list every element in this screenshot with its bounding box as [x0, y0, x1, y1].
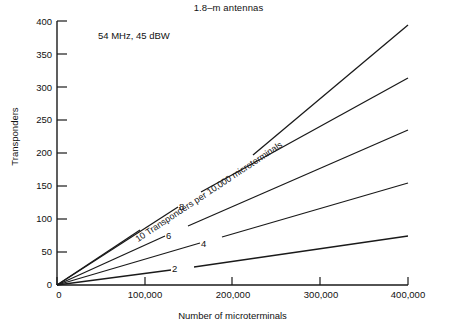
y-axis-ticks [57, 21, 67, 252]
series-label-8: 8 [179, 201, 184, 212]
series-line-10 [57, 25, 408, 285]
series-label-4: 4 [201, 238, 206, 249]
series-label-6: 6 [166, 230, 171, 241]
series-line-4 [57, 183, 408, 285]
series-label-2: 2 [172, 263, 177, 274]
plot-area [0, 0, 457, 332]
chart-figure: 1.8–m antennas 54 MHz, 45 dBW Transponde… [0, 0, 457, 332]
